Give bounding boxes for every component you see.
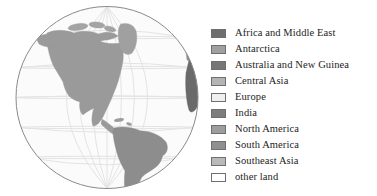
legend-label-india: India — [235, 107, 257, 119]
legend-item-north-america: North America — [211, 121, 377, 137]
legend-label-north-america: North America — [235, 123, 299, 135]
globe-map-panel — [0, 0, 205, 196]
landmass-africa-middle-east — [186, 59, 202, 112]
legend-swatch-india — [211, 109, 226, 118]
legend-swatch-south-america — [211, 141, 226, 150]
legend-swatch-other-land — [211, 173, 226, 182]
legend-item-india: India — [211, 105, 377, 121]
legend-swatch-central-asia — [211, 77, 226, 86]
legend-label-antarctica: Antarctica — [235, 43, 280, 55]
legend-swatch-africa-and-middle-east — [211, 29, 226, 38]
legend-item-antarctica: Antarctica — [211, 41, 377, 57]
legend-label-africa-and-middle-east: Africa and Middle East — [235, 27, 335, 39]
world-globe-figure: Africa and Middle East Antarctica Austra… — [0, 0, 377, 196]
region-legend: Africa and Middle East Antarctica Austra… — [211, 25, 377, 185]
legend-item-europe: Europe — [211, 89, 377, 105]
legend-label-australia-and-new-guinea: Australia and New Guinea — [235, 59, 349, 71]
legend-label-other-land: other land — [235, 171, 278, 183]
legend-swatch-north-america — [211, 125, 226, 134]
globe-map — [0, 0, 205, 196]
legend-item-south-america: South America — [211, 137, 377, 153]
legend-label-central-asia: Central Asia — [235, 75, 288, 87]
legend-swatch-europe — [211, 93, 226, 102]
legend-item-africa-and-middle-east: Africa and Middle East — [211, 25, 377, 41]
legend-label-south-america: South America — [235, 139, 299, 151]
legend-label-europe: Europe — [235, 91, 266, 103]
legend-swatch-antarctica — [211, 45, 226, 54]
legend-item-central-asia: Central Asia — [211, 73, 377, 89]
legend-swatch-australia-and-new-guinea — [211, 61, 226, 70]
legend-item-southeast-asia: Southeast Asia — [211, 153, 377, 169]
legend-item-other-land: other land — [211, 169, 377, 185]
legend-label-southeast-asia: Southeast Asia — [235, 155, 299, 167]
legend-swatch-southeast-asia — [211, 157, 226, 166]
legend-item-australia-and-new-guinea: Australia and New Guinea — [211, 57, 377, 73]
